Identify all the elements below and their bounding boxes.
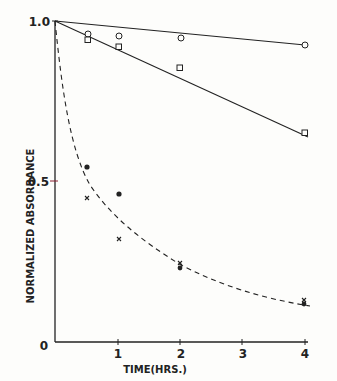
x-tick-label-2: 2 <box>177 347 185 361</box>
x-axis-label: TIME(HRS.) <box>123 364 187 375</box>
x-tick-label-0: 0 <box>40 339 48 353</box>
series-filled-circles <box>84 164 306 306</box>
x-tick-label-3: 3 <box>239 347 247 361</box>
fit-curve-dashed <box>55 21 310 306</box>
chart: 0 1 2 3 4 1.0 0.5 TIME(HRS.) NORMALIZED … <box>0 0 337 381</box>
x-tick-label-4: 4 <box>301 347 309 361</box>
y-axis-label: NORMALIZED ABSORBANCE <box>25 148 36 303</box>
fit-line-circles <box>55 21 305 45</box>
series-crosses <box>85 196 306 302</box>
x-tick-label-1: 1 <box>114 347 122 361</box>
y-tick-label-1.0: 1.0 <box>29 15 50 29</box>
